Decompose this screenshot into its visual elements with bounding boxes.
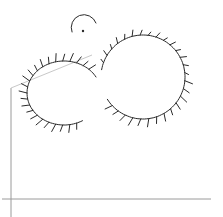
bristle-stroke xyxy=(180,96,186,102)
bristle-stroke xyxy=(120,115,125,120)
creature-drawing xyxy=(19,15,192,133)
bristle-stroke xyxy=(132,30,133,36)
bristle-stroke xyxy=(89,65,96,69)
bristle-stroke xyxy=(113,111,118,114)
bristle-stroke xyxy=(19,91,27,93)
bristle-stroke xyxy=(183,65,188,66)
bristle-stroke xyxy=(140,30,142,35)
bristle-stroke xyxy=(48,57,49,64)
bristle-stroke xyxy=(104,51,107,56)
bristle-stroke xyxy=(22,84,28,87)
bristle-stroke xyxy=(148,32,151,35)
bristle-stroke xyxy=(138,119,141,126)
bristle-stroke xyxy=(156,33,160,37)
head-arc xyxy=(71,15,96,32)
bristle-stroke xyxy=(176,103,180,109)
bristle-stroke xyxy=(176,50,181,51)
bristle-stroke xyxy=(52,124,56,131)
bristle-stroke xyxy=(180,57,186,58)
bristle-stroke xyxy=(69,125,70,133)
left-lobe-bristles xyxy=(19,54,95,133)
guide-lines xyxy=(2,55,211,217)
bristle-stroke xyxy=(31,115,38,119)
bristle-stroke xyxy=(44,122,49,127)
bristle-stroke xyxy=(60,125,62,131)
bristle-stroke xyxy=(105,106,112,109)
right-lobe-outline xyxy=(102,35,185,119)
bristle-stroke xyxy=(35,65,38,71)
bristle-stroke xyxy=(185,81,193,84)
bristle-stroke xyxy=(148,119,149,127)
bristle-stroke xyxy=(63,54,65,61)
bristle-stroke xyxy=(36,119,43,125)
bristle-stroke xyxy=(110,45,111,49)
bristle-stroke xyxy=(164,113,166,121)
bristle-stroke xyxy=(183,89,189,93)
diagonal-guide-line xyxy=(11,55,92,88)
right-lobe-bristles xyxy=(101,30,193,127)
bristle-stroke xyxy=(23,76,30,81)
bristle-stroke xyxy=(163,38,167,40)
eye-dot xyxy=(82,30,84,32)
bristle-stroke xyxy=(171,109,173,115)
bristle-stroke xyxy=(22,105,30,106)
sketch-canvas xyxy=(0,0,223,217)
bristle-stroke xyxy=(21,98,28,99)
bristle-stroke xyxy=(128,118,132,125)
bristle-stroke xyxy=(101,59,104,62)
bristle-stroke xyxy=(170,42,175,45)
bristle-stroke xyxy=(116,38,117,44)
bristle-stroke xyxy=(40,60,43,67)
bristle-stroke xyxy=(27,110,33,112)
bristle-stroke xyxy=(28,70,33,76)
bristle-stroke xyxy=(70,54,74,62)
bristle-stroke xyxy=(83,61,88,65)
